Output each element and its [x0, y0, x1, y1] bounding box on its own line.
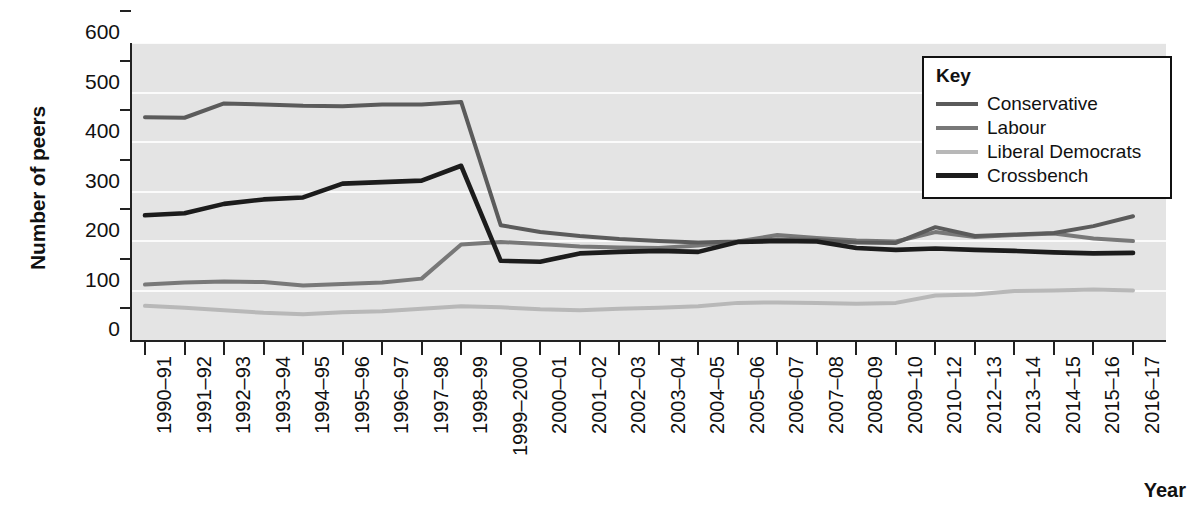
x-tick-label: 2002–03	[627, 356, 650, 434]
legend-label: Crossbench	[987, 166, 1088, 185]
y-tick-label: 200	[85, 218, 120, 242]
x-tick-label: 2007–08	[825, 356, 848, 434]
x-tick-label: 1993–94	[272, 356, 295, 434]
x-tick-mark	[263, 342, 265, 355]
x-tick-mark	[776, 342, 778, 355]
x-tick-label: 2005–06	[746, 356, 769, 434]
y-tick-label: 400	[85, 119, 120, 143]
y-tick-mark	[120, 60, 131, 62]
y-tick-label: 0	[108, 317, 120, 341]
x-tick-mark	[1092, 342, 1094, 355]
series-line-liberal-democrats	[145, 290, 1133, 315]
x-tick-mark	[974, 342, 976, 355]
legend-key: Key ConservativeLabourLiberal DemocratsC…	[922, 56, 1172, 199]
x-tick-label: 2004–05	[706, 356, 729, 434]
x-tick-label: 2000–01	[548, 356, 571, 434]
x-tick-label: 2008–09	[864, 356, 887, 434]
y-axis-tick-labels: 0100200300400500600	[58, 32, 120, 348]
x-tick-mark	[342, 342, 344, 355]
y-tick-label: 100	[85, 268, 120, 292]
x-tick-label: 1999–2000	[509, 356, 532, 456]
legend-color-swatch	[936, 173, 978, 178]
x-tick-mark	[579, 342, 581, 355]
x-tick-mark	[460, 342, 462, 355]
x-axis-tick-labels: 1990–911991–921992–931993–941994–951995–…	[0, 356, 1204, 476]
y-tick-mark	[120, 109, 131, 111]
x-tick-mark	[144, 342, 146, 355]
x-tick-label: 1998–99	[469, 356, 492, 434]
x-tick-mark	[816, 342, 818, 355]
legend-title: Key	[936, 66, 1160, 86]
x-tick-label: 1996–97	[390, 356, 413, 434]
x-tick-label: 2014–15	[1062, 356, 1085, 434]
x-tick-mark	[895, 342, 897, 355]
x-tick-mark	[658, 342, 660, 355]
y-tick-label: 300	[85, 169, 120, 193]
y-tick-label: 500	[85, 70, 120, 94]
x-tick-label: 2006–07	[785, 356, 808, 434]
x-tick-label: 1995–96	[351, 356, 374, 434]
x-tick-mark	[855, 342, 857, 355]
x-tick-mark	[934, 342, 936, 355]
x-tick-label: 1991–92	[193, 356, 216, 434]
legend-label: Labour	[987, 118, 1046, 137]
x-tick-mark	[1053, 342, 1055, 355]
x-tick-mark	[223, 342, 225, 355]
y-tick-mark	[120, 208, 131, 210]
legend-entry: Conservative	[936, 92, 1160, 116]
legend-entries: ConservativeLabourLiberal DemocratsCross…	[936, 92, 1160, 188]
x-tick-mark	[1013, 342, 1015, 355]
x-tick-label: 2015–16	[1101, 356, 1124, 434]
x-tick-mark	[618, 342, 620, 355]
x-tick-mark	[697, 342, 699, 355]
x-tick-label: 2009–10	[904, 356, 927, 434]
legend-label: Liberal Democrats	[987, 142, 1141, 161]
legend-color-swatch	[936, 102, 978, 106]
legend-entry: Crossbench	[936, 164, 1160, 188]
chart-figure: Number of peers Year 0100200300400500600…	[0, 0, 1204, 510]
x-tick-mark	[302, 342, 304, 355]
legend-entry: Labour	[936, 116, 1160, 140]
x-tick-label: 1992–93	[232, 356, 255, 434]
x-axis-ticks	[0, 342, 1204, 356]
legend-color-swatch	[936, 126, 978, 130]
y-axis-title: Number of peers	[26, 58, 50, 318]
y-tick-mark	[120, 307, 131, 309]
legend-color-swatch	[936, 150, 978, 154]
y-tick-mark	[120, 10, 131, 12]
x-tick-mark	[737, 342, 739, 355]
x-tick-mark	[381, 342, 383, 355]
legend-label: Conservative	[987, 94, 1098, 113]
y-tick-mark	[120, 258, 131, 260]
x-tick-label: 2013–14	[1022, 356, 1045, 434]
x-tick-mark	[500, 342, 502, 355]
x-tick-label: 2012–13	[983, 356, 1006, 434]
x-tick-label: 2016–17	[1141, 356, 1164, 434]
y-tick-label: 600	[85, 20, 120, 44]
x-tick-mark	[421, 342, 423, 355]
x-tick-label: 2001–02	[588, 356, 611, 434]
x-axis-title: Year	[1144, 479, 1186, 502]
x-tick-label: 2003–04	[667, 356, 690, 434]
x-tick-label: 2010–12	[943, 356, 966, 434]
x-tick-mark	[184, 342, 186, 355]
legend-entry: Liberal Democrats	[936, 140, 1160, 164]
x-tick-label: 1994–95	[311, 356, 334, 434]
x-tick-mark	[539, 342, 541, 355]
x-tick-label: 1997–98	[430, 356, 453, 434]
y-tick-mark	[120, 159, 131, 161]
x-tick-label: 1990–91	[153, 356, 176, 434]
x-tick-mark	[1132, 342, 1134, 355]
